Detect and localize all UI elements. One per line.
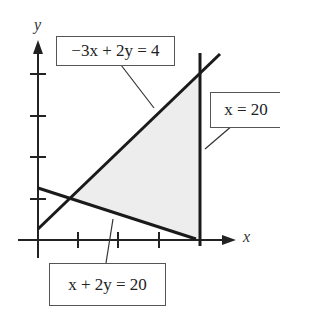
leader-line-1 bbox=[121, 65, 154, 108]
x-axis-arrow-icon bbox=[222, 235, 236, 245]
label-box-neg3x-plus-2y-eq-4: −3x + 2y = 4 bbox=[56, 36, 175, 66]
y-axis-arrow-icon bbox=[33, 40, 43, 54]
feasible-region bbox=[70, 74, 200, 239]
x-axis-label: x bbox=[243, 228, 250, 246]
label-box-x-plus-2y-eq-20: x + 2y = 20 bbox=[49, 263, 166, 306]
y-axis-label: y bbox=[34, 16, 41, 34]
label-box-x-eq-20: x = 20 bbox=[210, 92, 280, 128]
